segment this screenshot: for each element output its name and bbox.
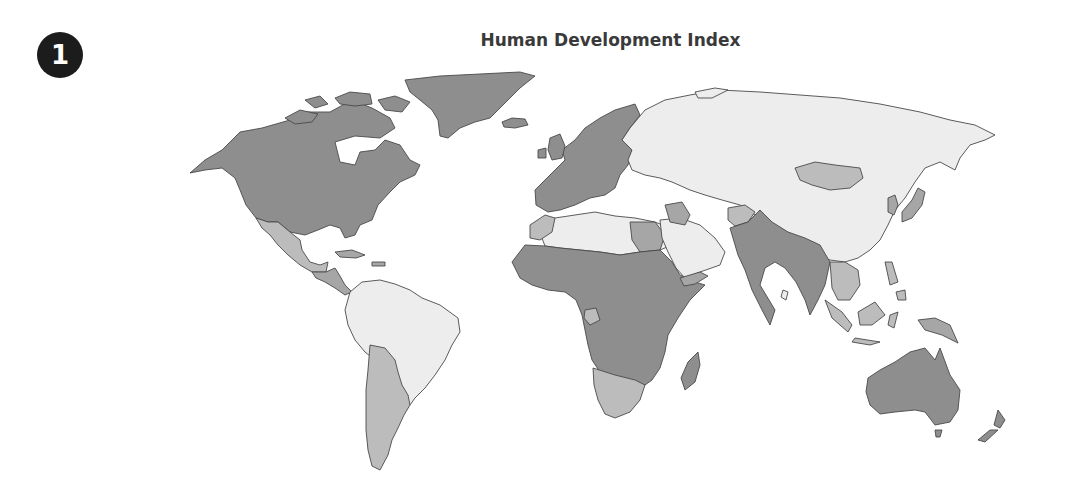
- region-philippines: [885, 262, 906, 300]
- region-new-zealand: [978, 410, 1005, 442]
- region-madagascar: [681, 352, 700, 390]
- region-iceland: [502, 118, 528, 128]
- region-uk-ireland: [538, 134, 565, 160]
- region-central-america: [312, 268, 352, 295]
- region-indonesia: [825, 300, 898, 345]
- region-papua-new-guinea: [918, 318, 958, 343]
- region-southeast-asia: [830, 262, 860, 300]
- region-sri-lanka: [781, 290, 788, 300]
- region-caribbean: [335, 250, 385, 266]
- region-australia: [866, 348, 960, 425]
- world-map: [0, 0, 1071, 478]
- region-tasmania: [935, 430, 942, 437]
